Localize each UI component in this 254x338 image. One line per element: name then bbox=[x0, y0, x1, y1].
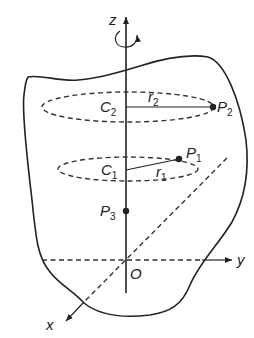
radius-r1 bbox=[126, 159, 179, 170]
z-axis-label: z bbox=[108, 11, 117, 28]
point-p3 bbox=[123, 208, 129, 214]
x-axis-label: x bbox=[45, 316, 54, 333]
x-axis-arrow bbox=[66, 302, 84, 321]
rigid-body-diagram: x y z O C2 r2 P2 C1 r1 P1 P3 bbox=[0, 0, 254, 338]
point-p1-label: P1 bbox=[186, 144, 202, 164]
origin-label: O bbox=[130, 265, 142, 282]
radius-r2-label: r2 bbox=[148, 88, 159, 108]
point-p1 bbox=[176, 156, 182, 162]
point-p2-label: P2 bbox=[217, 98, 233, 118]
y-axis-label: y bbox=[236, 251, 246, 268]
center-c2-label: C2 bbox=[100, 98, 117, 118]
center-c1-label: C1 bbox=[101, 161, 118, 181]
point-p3-label: P3 bbox=[100, 202, 116, 222]
point-p2 bbox=[210, 104, 216, 110]
